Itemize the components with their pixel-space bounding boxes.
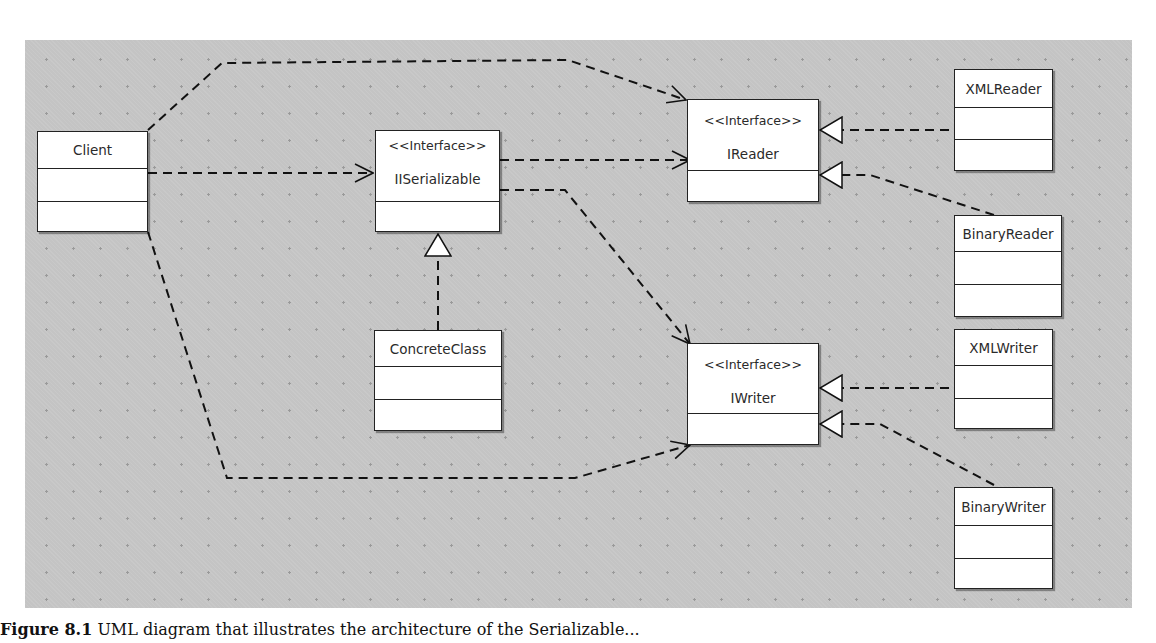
class-header: <<Interface>> IWriter [688,344,818,413]
attributes-compartment [955,251,1061,284]
class-binaryreader[interactable]: BinaryReader [954,215,1062,317]
class-name: BinaryWriter [955,488,1052,525]
figure-label: Figure 8.1 [0,620,92,639]
class-name: Client [38,132,147,168]
class-name: IReader [688,145,818,163]
operations-compartment [376,201,499,231]
class-header: <<Interface>> IISerializable [376,131,499,201]
class-xmlwriter[interactable]: XMLWriter [954,329,1053,429]
attributes-compartment [955,107,1052,139]
class-name: IWriter [688,389,818,407]
class-name: ConcreteClass [375,331,501,366]
operations-compartment [955,398,1052,427]
figure-caption-text: UML diagram that illustrates the archite… [97,620,639,639]
operations-compartment [955,284,1061,315]
stereotype-label: <<Interface>> [688,356,818,374]
attributes-compartment [38,168,147,201]
interface-iserializable[interactable]: <<Interface>> IISerializable [375,130,500,232]
figure-caption: Figure 8.1 UML diagram that illustrates … [0,620,1156,643]
class-name: XMLReader [955,70,1052,107]
attributes-compartment [375,366,501,399]
attributes-compartment [955,365,1052,398]
operations-compartment [375,399,501,430]
class-concreteclass[interactable]: ConcreteClass [374,330,502,431]
class-client[interactable]: Client [37,131,148,232]
class-xmlreader[interactable]: XMLReader [954,69,1053,171]
operations-compartment [688,413,818,444]
operations-compartment [688,170,818,201]
class-name: BinaryReader [955,216,1061,251]
interface-iwriter[interactable]: <<Interface>> IWriter [687,343,819,445]
class-name: XMLWriter [955,330,1052,365]
class-name: IISerializable [376,170,499,188]
operations-compartment [38,201,147,231]
operations-compartment [955,558,1052,587]
stereotype-label: <<Interface>> [376,137,499,155]
attributes-compartment [955,525,1052,558]
stereotype-label: <<Interface>> [688,112,818,130]
operations-compartment [955,139,1052,169]
class-header: <<Interface>> IReader [688,100,818,170]
interface-ireader[interactable]: <<Interface>> IReader [687,99,819,202]
class-binarywriter[interactable]: BinaryWriter [954,487,1053,589]
